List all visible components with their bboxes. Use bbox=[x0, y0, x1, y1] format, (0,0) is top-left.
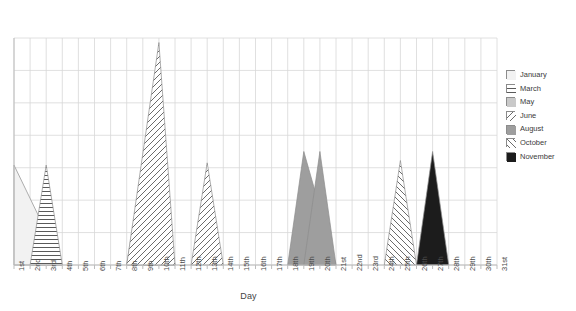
legend-swatch-icon bbox=[506, 97, 515, 106]
x-tick-label: 6th bbox=[98, 261, 107, 271]
series-area-november bbox=[417, 152, 449, 266]
legend-item-label: May bbox=[520, 98, 534, 106]
legend-item-november[interactable]: November bbox=[506, 150, 576, 164]
x-tick-label: 29th bbox=[468, 256, 477, 271]
x-tick-label: 28th bbox=[452, 256, 461, 271]
legend-item-may[interactable]: May bbox=[506, 95, 576, 109]
x-tick-label: 14th bbox=[226, 256, 235, 271]
x-tick-label: 7th bbox=[114, 261, 123, 271]
x-tick-label: 17th bbox=[275, 256, 284, 271]
x-tick-label: 8th bbox=[130, 261, 139, 271]
legend-swatch-icon bbox=[506, 152, 515, 161]
legend-item-january[interactable]: January bbox=[506, 68, 576, 82]
x-tick-label: 1st bbox=[17, 261, 26, 271]
series-area-june bbox=[127, 43, 175, 265]
x-tick-label: 11th bbox=[178, 257, 187, 271]
x-tick-label: 4th bbox=[65, 261, 74, 271]
legend-swatch-icon bbox=[506, 111, 515, 120]
legend-item-june[interactable]: June bbox=[506, 109, 576, 123]
legend-swatch-icon bbox=[506, 70, 515, 79]
x-tick-label: 27th bbox=[436, 256, 445, 271]
legend-swatch-icon bbox=[506, 125, 515, 134]
x-tick-label: 15th bbox=[242, 256, 251, 271]
x-tick-label: 25th bbox=[403, 256, 412, 271]
chart-legend: JanuaryMarchMayJuneAugustOctoberNovember bbox=[506, 68, 576, 163]
x-tick-label: 13th bbox=[210, 256, 219, 271]
chart-container: 1st2nd3rd4th5th6th7th8th9th10th11th12th1… bbox=[0, 0, 576, 311]
chart-series-layer bbox=[14, 43, 449, 265]
legend-swatch-icon bbox=[506, 84, 515, 93]
x-tick-label: 10th bbox=[162, 256, 171, 271]
x-tick-label: 2nd bbox=[33, 258, 42, 271]
x-tick-label: 5th bbox=[81, 261, 90, 271]
x-tick-label: 18th bbox=[291, 256, 300, 271]
legend-item-march[interactable]: March bbox=[506, 82, 576, 96]
legend-item-label: March bbox=[520, 85, 541, 93]
x-tick-label: 30th bbox=[484, 256, 493, 271]
x-tick-label: 21st bbox=[339, 257, 348, 271]
legend-item-label: January bbox=[520, 71, 547, 79]
x-tick-label: 12th bbox=[194, 256, 203, 271]
x-axis-title: Day bbox=[0, 291, 497, 301]
x-tick-label: 19th bbox=[307, 256, 316, 271]
legend-item-october[interactable]: October bbox=[506, 136, 576, 150]
x-tick-label: 31st bbox=[500, 257, 509, 271]
x-tick-label: 24th bbox=[387, 256, 396, 271]
x-tick-label: 3rd bbox=[49, 260, 58, 271]
x-tick-label: 23rd bbox=[371, 256, 380, 271]
x-tick-label: 16th bbox=[259, 256, 268, 271]
x-tick-label: 22nd bbox=[355, 254, 364, 271]
legend-item-label: August bbox=[520, 125, 543, 133]
x-tick-label: 9th bbox=[146, 261, 155, 271]
legend-item-august[interactable]: August bbox=[506, 122, 576, 136]
legend-item-label: October bbox=[520, 139, 547, 147]
legend-item-label: November bbox=[520, 153, 555, 161]
x-tick-label: 20th bbox=[323, 256, 332, 271]
legend-item-label: June bbox=[520, 112, 536, 120]
series-area-june bbox=[191, 163, 223, 265]
series-area-october bbox=[384, 161, 416, 265]
legend-swatch-icon bbox=[506, 138, 515, 147]
x-tick-label: 26th bbox=[420, 256, 429, 271]
